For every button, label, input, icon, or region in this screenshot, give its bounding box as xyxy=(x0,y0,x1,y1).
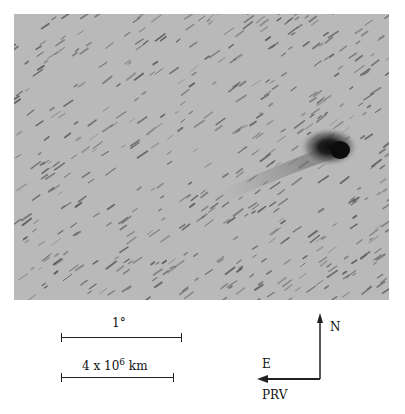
scale-label-degree: 1° xyxy=(112,316,126,330)
scale-bar-degree-left-tick xyxy=(61,333,62,342)
scale-bar-distance xyxy=(62,377,174,378)
scale-bar-degree xyxy=(62,337,182,338)
comet-nucleus xyxy=(330,141,350,159)
compass-prv-label: PRV xyxy=(262,388,287,402)
compass-east-label: E xyxy=(262,357,271,371)
comet-image xyxy=(14,14,389,300)
scale-bar-degree-right-tick xyxy=(181,333,182,342)
scale-label-distance-unit: km xyxy=(125,359,147,373)
scale-label-distance: 4 x 106 km xyxy=(82,357,148,373)
north-arrow-icon xyxy=(317,313,323,323)
star-field xyxy=(14,14,389,300)
east-arrow-icon xyxy=(257,375,268,383)
scale-label-distance-base: 4 x 10 xyxy=(82,359,119,373)
scale-bar-distance-left-tick xyxy=(61,373,62,382)
scale-bar-distance-right-tick xyxy=(173,373,174,382)
comet-coma xyxy=(299,127,359,167)
compass-north-label: N xyxy=(330,320,341,334)
